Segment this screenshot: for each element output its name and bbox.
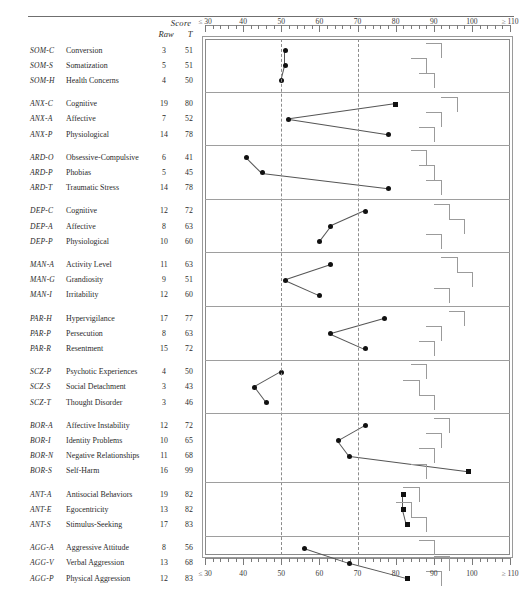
section-separator bbox=[205, 360, 510, 361]
raw-score-ard-p: 5 bbox=[152, 168, 176, 177]
scale-name-ant-a: Antisocial Behaviors bbox=[66, 490, 158, 499]
scale-name-anx-c: Cognitive bbox=[66, 99, 158, 108]
raw-score-scz-p: 4 bbox=[152, 367, 176, 376]
normative-step-horizontal bbox=[411, 464, 426, 465]
axis-tick-label: 100 bbox=[456, 569, 488, 578]
normative-step-horizontal bbox=[419, 165, 434, 166]
normative-step-horizontal bbox=[419, 540, 434, 541]
t-score-anx-c: 80 bbox=[178, 99, 200, 108]
t-score-man-i: 60 bbox=[178, 290, 200, 299]
t-score-som-s: 51 bbox=[178, 61, 200, 70]
t-score-dep-a: 63 bbox=[178, 222, 200, 231]
axis-tick-major bbox=[205, 25, 206, 32]
raw-score-ard-o: 6 bbox=[152, 153, 176, 162]
t-score-ant-e: 82 bbox=[178, 505, 200, 514]
axis-tick-label: ≥ 110 bbox=[494, 17, 522, 26]
raw-score-ant-a: 19 bbox=[152, 490, 176, 499]
data-point-man-g bbox=[283, 278, 288, 283]
raw-score-som-h: 4 bbox=[152, 76, 176, 85]
axis-tick-major bbox=[472, 558, 473, 565]
data-point-som-s bbox=[283, 63, 288, 68]
axis-tick-minor bbox=[373, 558, 374, 562]
normative-step-horizontal bbox=[434, 288, 449, 289]
t-score-man-a: 63 bbox=[178, 260, 200, 269]
axis-tick-label: 70 bbox=[342, 569, 374, 578]
axis-tick-label: 40 bbox=[227, 569, 259, 578]
t-score-dep-c: 72 bbox=[178, 206, 200, 215]
normative-step-vertical bbox=[426, 58, 427, 73]
data-point-ant-a bbox=[401, 492, 406, 497]
section-separator bbox=[205, 252, 510, 253]
axis-top bbox=[205, 25, 510, 39]
normative-step-horizontal bbox=[411, 364, 426, 365]
data-point-man-i bbox=[317, 293, 322, 298]
raw-score-scz-s: 3 bbox=[152, 382, 176, 391]
scale-name-som-h: Health Concerns bbox=[66, 76, 158, 85]
axis-tick-major bbox=[281, 25, 282, 32]
scale-name-agg-a: Aggressive Attitude bbox=[66, 543, 158, 552]
normative-step-vertical bbox=[449, 288, 450, 303]
normative-step-vertical bbox=[426, 150, 427, 165]
axis-tick-minor bbox=[213, 558, 214, 562]
axis-tick-minor bbox=[228, 558, 229, 562]
normative-step-vertical bbox=[434, 165, 435, 180]
scale-name-par-h: Hypervigilance bbox=[66, 314, 158, 323]
section-separator bbox=[205, 482, 510, 483]
axis-tick-minor bbox=[236, 558, 237, 562]
normative-step-horizontal bbox=[426, 433, 441, 434]
raw-score-par-h: 17 bbox=[152, 314, 176, 323]
data-point-bor-a bbox=[363, 423, 368, 428]
t-score-par-r: 72 bbox=[178, 344, 200, 353]
axis-tick-label: 60 bbox=[303, 569, 335, 578]
t-score-ard-p: 45 bbox=[178, 168, 200, 177]
data-point-par-h bbox=[382, 316, 387, 321]
axis-tick-minor bbox=[297, 558, 298, 562]
raw-score-man-g: 9 bbox=[152, 275, 176, 284]
normative-step-vertical bbox=[434, 73, 435, 88]
scale-name-dep-c: Cognitive bbox=[66, 206, 158, 215]
raw-score-bor-s: 16 bbox=[152, 466, 176, 475]
axis-tick-major bbox=[396, 558, 397, 565]
t-column-header: T bbox=[181, 29, 199, 39]
axis-tick-minor bbox=[258, 558, 259, 562]
axis-tick-major bbox=[434, 25, 435, 32]
normative-step-horizontal bbox=[426, 180, 441, 181]
axis-tick-minor bbox=[457, 558, 458, 562]
scale-name-ant-s: Stimulus-Seeking bbox=[66, 520, 158, 529]
scale-name-agg-v: Verbal Aggression bbox=[66, 558, 158, 567]
normative-step-horizontal bbox=[449, 219, 464, 220]
t-score-bor-s: 99 bbox=[178, 466, 200, 475]
t-score-som-c: 51 bbox=[178, 46, 200, 55]
axis-tick-label: 80 bbox=[380, 569, 412, 578]
data-point-anx-c bbox=[393, 102, 398, 107]
t-score-agg-v: 68 bbox=[178, 558, 200, 567]
axis-tick-minor bbox=[365, 558, 366, 562]
normative-step-vertical bbox=[434, 540, 435, 555]
data-point-bor-s bbox=[466, 469, 471, 474]
axis-tick-minor bbox=[312, 558, 313, 562]
t-score-scz-t: 46 bbox=[178, 398, 200, 407]
axis-tick-label: ≥ 110 bbox=[494, 569, 522, 578]
axis-tick-minor bbox=[327, 558, 328, 562]
normative-step-horizontal bbox=[419, 73, 434, 74]
scale-name-man-i: Irritability bbox=[66, 290, 158, 299]
t-score-ard-t: 78 bbox=[178, 183, 200, 192]
data-point-ant-s bbox=[405, 522, 410, 527]
scale-name-scz-p: Psychotic Experiences bbox=[66, 367, 158, 376]
t-score-scz-s: 43 bbox=[178, 382, 200, 391]
normative-step-vertical bbox=[449, 204, 450, 219]
normative-step-horizontal bbox=[419, 448, 434, 449]
axis-tick-major bbox=[243, 558, 244, 565]
scale-name-anx-p: Physiological bbox=[66, 130, 158, 139]
t-score-man-g: 51 bbox=[178, 275, 200, 284]
raw-score-dep-c: 12 bbox=[152, 206, 176, 215]
axis-tick-minor bbox=[403, 558, 404, 562]
section-separator bbox=[205, 306, 510, 307]
axis-tick-major bbox=[243, 25, 244, 32]
axis-tick-minor bbox=[426, 558, 427, 562]
axis-tick-major bbox=[319, 558, 320, 565]
axis-tick-minor bbox=[380, 558, 381, 562]
axis-tick-major bbox=[434, 558, 435, 565]
normative-step-horizontal bbox=[411, 58, 426, 59]
section-separator bbox=[205, 413, 510, 414]
